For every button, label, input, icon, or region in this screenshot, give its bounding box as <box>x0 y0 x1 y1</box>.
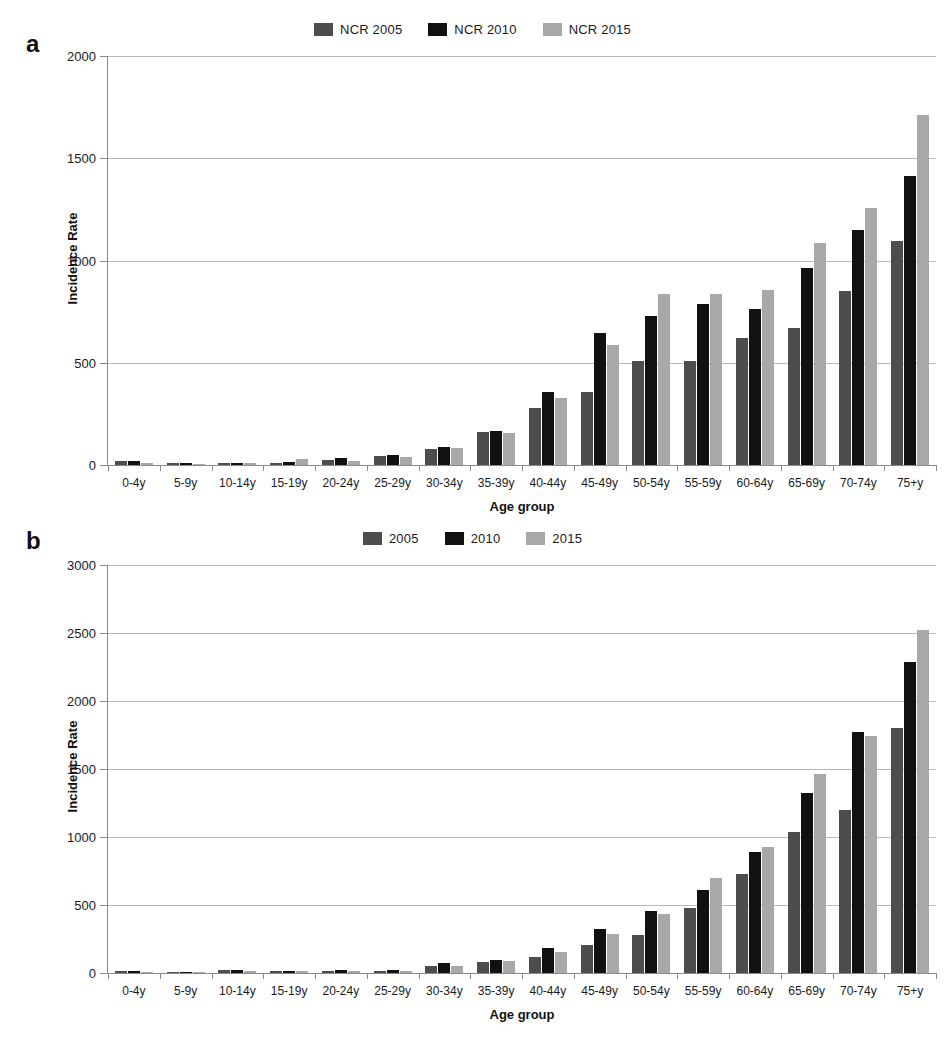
x-axis-tick <box>263 973 264 979</box>
x-axis-tick-label: 75+y <box>897 984 923 998</box>
bar <box>296 971 308 973</box>
bar <box>451 448 463 465</box>
y-axis-tick-label: 1500 <box>67 151 96 166</box>
y-axis-tick <box>100 837 108 838</box>
bar-group <box>788 56 826 465</box>
bar-group <box>736 56 774 465</box>
legend-item[interactable]: 2010 <box>445 531 501 546</box>
x-axis-tick <box>833 465 834 471</box>
figure-root: a NCR 2005NCR 2010NCR 2015 0500100015002… <box>0 0 945 1050</box>
bar <box>180 972 192 973</box>
bar <box>542 392 554 465</box>
x-axis-tick <box>936 973 937 979</box>
x-axis-tick <box>574 465 575 471</box>
x-axis-tick <box>884 465 885 471</box>
bar-group <box>167 56 205 465</box>
x-axis-tick <box>884 973 885 979</box>
bar <box>335 970 347 973</box>
bar-group <box>218 56 256 465</box>
bar <box>684 361 696 465</box>
panel-b-bars <box>108 565 936 973</box>
y-axis-tick <box>100 701 108 702</box>
bar-group <box>270 565 308 973</box>
bar-group <box>581 565 619 973</box>
bar-group <box>891 565 929 973</box>
bar <box>218 463 230 465</box>
bar <box>270 971 282 973</box>
legend-swatch-icon <box>363 532 382 545</box>
x-axis-tick <box>470 973 471 979</box>
x-axis-tick <box>729 465 730 471</box>
x-axis-tick-label: 20-24y <box>323 476 360 490</box>
y-axis-tick-label: 500 <box>74 898 96 913</box>
bar-group <box>684 56 722 465</box>
x-axis-tick <box>677 465 678 471</box>
bar <box>788 832 800 973</box>
legend-item[interactable]: NCR 2015 <box>543 22 631 37</box>
legend-item[interactable]: 2015 <box>526 531 582 546</box>
panel-a: a NCR 2005NCR 2010NCR 2015 0500100015002… <box>0 0 945 520</box>
bar <box>477 432 489 465</box>
x-axis-tick-label: 60-64y <box>737 476 774 490</box>
bar <box>839 291 851 465</box>
panel-a-bars <box>108 56 936 465</box>
x-axis-tick-label: 10-14y <box>219 984 256 998</box>
bar <box>581 392 593 465</box>
bar <box>283 971 295 973</box>
legend-swatch-icon <box>526 532 545 545</box>
legend-item[interactable]: 2005 <box>363 531 419 546</box>
bar <box>904 662 916 973</box>
bar <box>490 431 502 465</box>
y-axis-tick-label: 0 <box>89 966 96 981</box>
x-axis-tick-label: 0-4y <box>122 476 145 490</box>
bar <box>193 972 205 973</box>
bar <box>684 908 696 973</box>
x-axis-tick-label: 70-74y <box>840 984 877 998</box>
bar <box>581 945 593 973</box>
bar <box>917 115 929 465</box>
legend-item[interactable]: NCR 2010 <box>428 22 516 37</box>
x-axis-tick <box>470 465 471 471</box>
x-axis-tick-label: 55-59y <box>685 984 722 998</box>
x-axis-tick-label: 55-59y <box>685 476 722 490</box>
bar <box>244 971 256 973</box>
x-axis-tick-label: 45-49y <box>581 476 618 490</box>
x-axis-tick-label: 5-9y <box>174 476 197 490</box>
bar <box>852 732 864 973</box>
x-axis-tick-label: 50-54y <box>633 476 670 490</box>
x-axis-tick-label: 65-69y <box>788 476 825 490</box>
x-axis-tick <box>108 465 109 471</box>
bar <box>400 971 412 973</box>
y-axis-tick <box>100 905 108 906</box>
bar-group <box>477 565 515 973</box>
bar-group <box>425 565 463 973</box>
bar <box>387 455 399 465</box>
bar <box>555 398 567 465</box>
bar <box>865 208 877 465</box>
x-axis-tick <box>367 465 368 471</box>
bar <box>296 459 308 465</box>
bar-group <box>115 56 153 465</box>
bar <box>607 345 619 465</box>
bar <box>231 970 243 973</box>
bar-group <box>632 56 670 465</box>
bar <box>632 935 644 973</box>
y-axis-tick <box>100 769 108 770</box>
x-axis-tick <box>936 465 937 471</box>
bar <box>632 361 644 465</box>
x-axis-tick-label: 30-34y <box>426 476 463 490</box>
bar <box>348 971 360 973</box>
bar-group <box>115 565 153 973</box>
x-axis-tick-label: 5-9y <box>174 984 197 998</box>
bar <box>917 630 929 973</box>
bar-group <box>581 56 619 465</box>
bar <box>115 461 127 465</box>
bar <box>438 447 450 465</box>
bar-group <box>788 565 826 973</box>
legend-item[interactable]: NCR 2005 <box>314 22 402 37</box>
x-axis-tick-label: 40-44y <box>530 476 567 490</box>
bar-group <box>529 56 567 465</box>
y-axis-tick-label: 500 <box>74 355 96 370</box>
y-axis-tick <box>100 363 108 364</box>
bar <box>115 971 127 973</box>
